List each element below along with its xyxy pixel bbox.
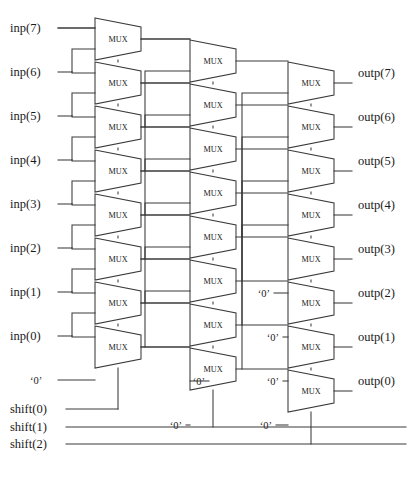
wire-s1-to-s2-skip-4	[145, 115, 190, 171]
mux-label: MUX	[301, 299, 320, 308]
ground-label-stage2-1: ‘0’	[170, 420, 182, 431]
mux-label: MUX	[203, 101, 222, 110]
mux-label: MUX	[301, 79, 320, 88]
ground-label-stage3-3: ‘0’	[260, 420, 272, 431]
barrel-shifter-diagram: MUXMUXMUXMUXMUXMUXMUXMUXMUXMUXMUXMUXMUXM…	[0, 0, 412, 484]
output-label-3: outp(3)	[358, 242, 395, 256]
mux-label: MUX	[108, 123, 127, 132]
wire-input-branch-dn-1	[72, 292, 95, 293]
input-label-7: inp(7)	[10, 21, 41, 35]
wire-s1-to-s2-skip-0	[145, 291, 190, 347]
wire-s2-to-s3-skip-1	[242, 181, 288, 325]
input-label-6: inp(6)	[10, 65, 41, 79]
wire-input-branch-up-0	[72, 313, 95, 336]
wire-input-branch-up-6	[72, 49, 95, 72]
wire-s1-to-s2-skip-5	[145, 71, 190, 127]
output-label-1: outp(1)	[358, 330, 395, 344]
output-label-7: outp(7)	[358, 66, 395, 80]
output-label-2: outp(2)	[358, 286, 395, 300]
ground-label-stage3-1: ‘0’	[267, 332, 279, 343]
wire-input-branch-dn-4	[72, 160, 95, 161]
wire-s2-to-s3-skip-2	[242, 137, 288, 281]
mux-label: MUX	[108, 343, 127, 352]
mux-label: MUX	[203, 189, 222, 198]
mux-label: MUX	[108, 79, 127, 88]
wire-input-branch-dn-5	[72, 116, 95, 117]
mux-label: MUX	[203, 57, 222, 66]
mux-label: MUX	[108, 255, 127, 264]
mux-label: MUX	[301, 211, 320, 220]
wire-input-branch-dn-6	[72, 72, 95, 73]
output-label-6: outp(6)	[358, 110, 395, 124]
ground-label-stage1: ‘0’	[30, 375, 42, 386]
wire-input-branch-up-5	[72, 93, 95, 116]
mux-label: MUX	[108, 299, 127, 308]
mux-label: MUX	[108, 211, 127, 220]
wire-input-branch-up-1	[72, 269, 95, 292]
mux-label: MUX	[203, 145, 222, 154]
wire-s1-to-s2-skip-1	[145, 247, 190, 303]
input-label-1: inp(1)	[10, 285, 41, 299]
output-label-5: outp(5)	[358, 154, 395, 168]
wire-s1-to-s2-skip-2	[145, 203, 190, 259]
wire-s2-to-s3-skip-3	[242, 93, 288, 237]
mux-label: MUX	[301, 343, 320, 352]
mux-label: MUX	[301, 167, 320, 176]
output-label-0: outp(0)	[358, 374, 395, 388]
wire-input-branch-dn-0	[72, 336, 95, 337]
input-label-2: inp(2)	[10, 241, 41, 255]
wire-input-branch-dn-2	[72, 248, 95, 249]
mux-label: MUX	[203, 277, 222, 286]
ground-label-stage3-2: ‘0’	[267, 376, 279, 387]
output-label-4: outp(4)	[358, 198, 395, 212]
mux-label: MUX	[203, 365, 222, 374]
mux-label: MUX	[301, 255, 320, 264]
mux-label: MUX	[301, 387, 320, 396]
wire-input-branch-dn-3	[72, 204, 95, 205]
circuit-canvas: MUXMUXMUXMUXMUXMUXMUXMUXMUXMUXMUXMUXMUXM…	[0, 0, 412, 484]
input-label-0: inp(0)	[10, 329, 41, 343]
mux-label: MUX	[108, 167, 127, 176]
wire-input-branch-up-4	[72, 137, 95, 160]
input-label-4: inp(4)	[10, 153, 41, 167]
wire-s1-to-s2-skip-3	[145, 159, 190, 215]
mux-label: MUX	[203, 233, 222, 242]
mux-label: MUX	[108, 35, 127, 44]
input-label-5: inp(5)	[10, 109, 41, 123]
ground-label-stage3-0: ‘0’	[258, 288, 270, 299]
wire-input-branch-up-2	[72, 225, 95, 248]
wire-input-branch-up-3	[72, 181, 95, 204]
control-label-2: shift(2)	[10, 437, 47, 451]
mux-label: MUX	[203, 321, 222, 330]
control-label-0: shift(0)	[10, 402, 47, 416]
input-label-3: inp(3)	[10, 197, 41, 211]
mux-label: MUX	[301, 123, 320, 132]
control-label-1: shift(1)	[10, 420, 47, 434]
